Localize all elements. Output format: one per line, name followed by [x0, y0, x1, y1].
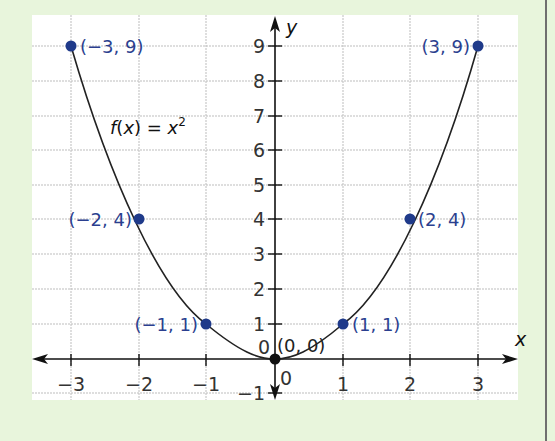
parabola-chart: (−3, 9) (−2, 4) (−1, 1) (1, 1) (2, 4) (3… — [0, 0, 555, 441]
svg-text:−1: −1 — [192, 373, 220, 395]
svg-text:8: 8 — [253, 70, 265, 92]
svg-text:7: 7 — [253, 105, 265, 127]
origin-x-label: 0 — [280, 367, 292, 389]
svg-text:6: 6 — [253, 139, 265, 161]
label-neg1-1: (−1, 1) — [135, 314, 198, 335]
point-neg3-9 — [66, 41, 77, 52]
point-1-1 — [338, 319, 349, 330]
x-axis-label: x — [514, 328, 527, 350]
svg-text:9: 9 — [253, 35, 265, 57]
label-neg2-4: (−2, 4) — [69, 209, 132, 230]
label-3-9: (3, 9) — [422, 36, 470, 57]
svg-text:1: 1 — [337, 373, 349, 395]
svg-text:3: 3 — [472, 373, 484, 395]
origin-y-label: 0 — [258, 336, 270, 358]
label-2-4: (2, 4) — [418, 209, 466, 230]
chart-frame: (−3, 9) (−2, 4) (−1, 1) (1, 1) (2, 4) (3… — [0, 0, 555, 441]
point-2-4 — [405, 214, 416, 225]
svg-text:−2: −2 — [125, 373, 153, 395]
frame-border — [545, 0, 547, 441]
svg-text:−3: −3 — [57, 373, 85, 395]
label-1-1: (1, 1) — [352, 314, 400, 335]
svg-text:2: 2 — [404, 373, 416, 395]
svg-text:4: 4 — [253, 208, 265, 230]
point-3-9 — [473, 41, 484, 52]
point-neg2-4 — [134, 214, 145, 225]
svg-text:3: 3 — [253, 243, 265, 265]
label-origin: (0, 0) — [277, 335, 325, 356]
label-neg3-9: (−3, 9) — [80, 36, 143, 57]
y-axis-label: y — [285, 16, 298, 38]
point-neg1-1 — [201, 319, 212, 330]
svg-text:−1: −1 — [237, 382, 265, 404]
function-label: f(x) = x2 — [110, 115, 186, 138]
svg-text:5: 5 — [253, 174, 265, 196]
svg-text:2: 2 — [253, 278, 265, 300]
svg-text:1: 1 — [253, 313, 265, 335]
